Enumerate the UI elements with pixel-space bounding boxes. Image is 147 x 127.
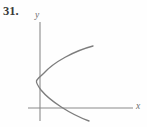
- y-axis-label: y: [35, 10, 39, 20]
- coordinate-plot: [0, 0, 147, 127]
- figure-container: 31. y x: [0, 0, 147, 127]
- x-axis-label: x: [136, 101, 140, 111]
- parabola-curve: [36, 46, 93, 121]
